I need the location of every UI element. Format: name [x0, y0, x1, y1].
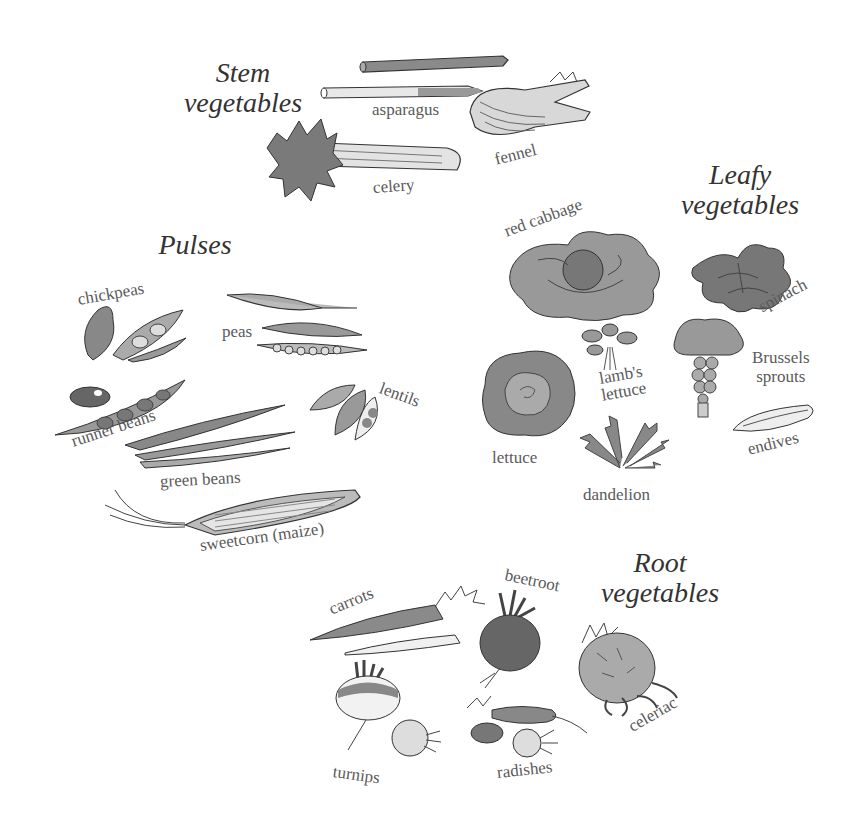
green-beans-illustration: [120, 400, 300, 470]
heading-line: Stem: [178, 58, 308, 88]
peas-label: peas: [222, 322, 252, 342]
pulses-heading: Pulses: [150, 230, 240, 260]
beetroot-illustration: [465, 588, 555, 693]
leafy-vegetables-heading: Leafy vegetables: [680, 160, 800, 220]
turnips-illustration: [328, 660, 458, 760]
heading-line: Leafy: [680, 160, 800, 190]
lentils-illustration: [305, 375, 385, 445]
dandelion-label: dandelion: [583, 485, 650, 505]
radishes-illustration: [462, 688, 592, 763]
celery-illustration: [262, 108, 472, 198]
label-line: Brussels: [752, 348, 810, 367]
radishes-label: radishes: [496, 757, 554, 783]
red-cabbage-illustration: [508, 225, 663, 325]
brussels-sprouts-label: Brussels sprouts: [752, 348, 810, 386]
heading-line: Root: [600, 548, 720, 578]
heading-line: vegetables: [680, 190, 800, 220]
lettuce-label: lettuce: [492, 448, 537, 468]
label-line: sprouts: [752, 367, 810, 386]
lettuce-illustration: [480, 345, 580, 440]
root-vegetables-heading: Root vegetables: [600, 548, 720, 608]
turnips-label: turnips: [332, 762, 382, 788]
heading-line: vegetables: [600, 578, 720, 608]
carrots-illustration: [305, 575, 490, 655]
celery-label: celery: [372, 175, 415, 198]
chickpeas-illustration: [78, 300, 198, 365]
dandelion-illustration: [575, 408, 670, 473]
lambs-lettuce-label: lamb's lettuce: [597, 362, 648, 403]
